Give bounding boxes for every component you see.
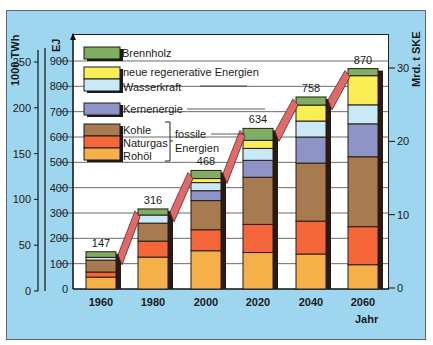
legend-kohle: Kohle [123,124,151,136]
axis-title-twh: 1000 TWh [9,34,21,86]
legend-kern: Kernenergie [123,103,183,115]
legend-brennholz: Brennholz [122,47,172,59]
legend-fossil-1: fossile [175,128,206,140]
legend-gas: Naturgas [123,137,168,149]
x-axis-title: Jahr [355,313,379,325]
legend-neue: neue regenerative Energien [123,66,259,78]
legend-fossil-2: Energien [175,142,219,154]
chart-labels: 1000 TWh EJ Mrd. t SKE Jahr Brennholz ne… [0,0,433,345]
axis-title-ske: Mrd. t SKE [410,31,422,87]
legend-oel: Rohöl [123,150,152,162]
axis-title-ej: EJ [50,39,62,52]
legend-wasser: Wasserkraft [123,81,181,93]
